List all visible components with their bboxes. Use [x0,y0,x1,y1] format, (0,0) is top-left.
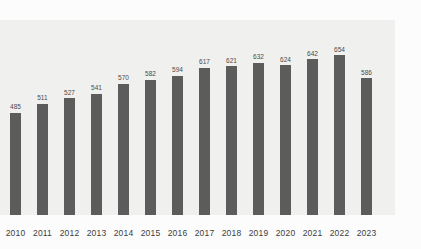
bar-value-label: 624 [272,55,299,64]
x-axis-tick-label: 2023 [353,228,380,239]
bar-value-label: 642 [299,49,326,58]
bar-value-label: 527 [56,88,83,97]
x-axis-tick-label: 2016 [164,228,191,239]
bar-group[interactable]: 654 [326,45,353,215]
bar-rect[interactable] [307,59,318,215]
bar-rect[interactable] [334,55,345,215]
bar-value-label: 594 [164,65,191,74]
bar-group[interactable]: 541 [83,83,110,215]
bar-rect[interactable] [199,68,210,215]
x-axis-tick-label: 2017 [191,228,218,239]
x-axis-tick-label: 2013 [83,228,110,239]
bar-rect[interactable] [226,66,237,215]
bar-rect[interactable] [37,104,48,215]
x-axis-tick-label: 2019 [245,228,272,239]
bar-value-label: 621 [218,56,245,65]
x-axis-tick-label: 2022 [326,228,353,239]
bar-value-label: 617 [191,57,218,66]
bar-value-label: 582 [137,69,164,78]
bar-group[interactable]: 621 [218,56,245,215]
x-axis-tick-label: 2015 [137,228,164,239]
bar-group[interactable]: 485 [2,102,29,215]
x-axis-tick-label: 2012 [56,228,83,239]
bar-group[interactable]: 594 [164,65,191,215]
x-axis-tick-label: 2018 [218,228,245,239]
bar-value-label: 511 [29,93,56,102]
bar-rect[interactable] [172,76,183,215]
bar-group[interactable]: 617 [191,57,218,215]
bar-rect[interactable] [118,84,129,215]
bar-group[interactable]: 586 [353,68,380,215]
bar-rect[interactable] [253,63,264,215]
bar-group[interactable]: 511 [29,93,56,215]
bars-layer: 4855115275415705825946176216326246426545… [0,0,421,249]
x-axis: 2010201120122013201420152016201720182019… [0,215,421,249]
x-axis-tick-label: 2010 [2,228,29,239]
bar-value-label: 485 [2,102,29,111]
bar-rect[interactable] [10,113,21,215]
bar-rect[interactable] [145,80,156,215]
bar-group[interactable]: 570 [110,73,137,215]
bar-group[interactable]: 632 [245,52,272,215]
bar-value-label: 654 [326,45,353,54]
bar-rect[interactable] [64,98,75,215]
x-axis-tick-label: 2011 [29,228,56,239]
bar-rect[interactable] [361,78,372,215]
bar-value-label: 541 [83,83,110,92]
x-axis-tick-label: 2021 [299,228,326,239]
x-axis-tick-label: 2014 [110,228,137,239]
bar-value-label: 632 [245,52,272,61]
bar-group[interactable]: 527 [56,88,83,215]
bar-rect[interactable] [280,65,291,215]
bar-group[interactable]: 642 [299,49,326,215]
bar-rect[interactable] [91,94,102,215]
bar-value-label: 586 [353,68,380,77]
bar-group[interactable]: 582 [137,69,164,215]
bar-chart: 4855115275415705825946176216326246426545… [0,0,421,249]
bar-value-label: 570 [110,73,137,82]
x-axis-tick-label: 2020 [272,228,299,239]
bar-group[interactable]: 624 [272,55,299,215]
